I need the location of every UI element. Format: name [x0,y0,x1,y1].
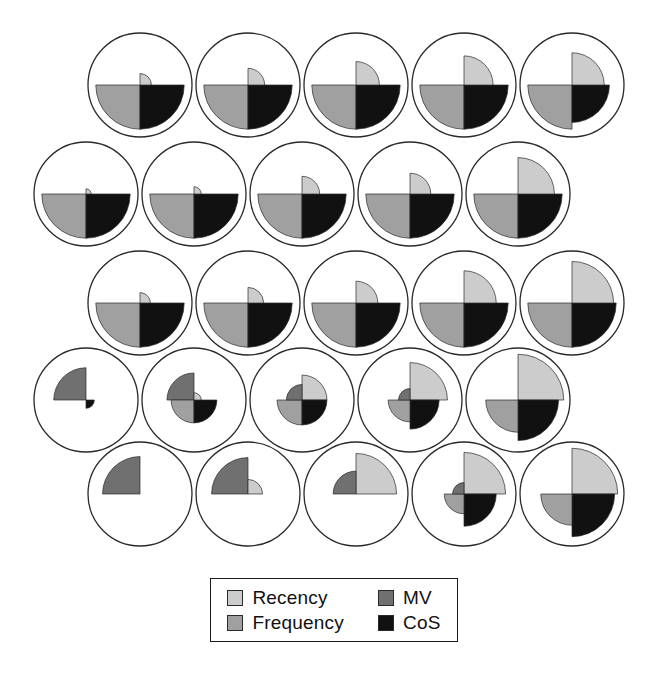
rose-glyph [520,33,624,137]
rose-sector-frequency [204,303,248,347]
rose-glyph [196,251,300,355]
rose-sector-cos [302,194,346,238]
rose-sector-cos [572,303,616,347]
rose-glyph [304,442,408,546]
rose-glyph [520,442,624,546]
rose-sector-recency [518,354,564,400]
rose-glyph [466,348,570,452]
rose-glyph [196,442,300,546]
rose-sector-cos [248,85,292,129]
rose-sector-cos [356,303,400,347]
rose-chart-grid [0,0,668,568]
rose-sector-cos [518,194,562,238]
rose-sector-cos [140,303,184,347]
rose-glyph [196,33,300,137]
rose-sector-frequency [420,85,464,129]
rose-sector-cos [194,194,238,238]
rose-chart-grid-svg [0,0,668,568]
rose-glyph [250,142,354,246]
rose-glyph [88,33,192,137]
rose-sector-frequency [96,303,140,347]
legend-item-frequency: Frequency [227,613,344,632]
rose-sector-cos [140,85,184,129]
legend-label-mv: MV [403,588,432,607]
rose-glyph [358,142,462,246]
rose-glyph [88,442,192,546]
rose-sector-cos [86,194,130,238]
rose-sector-cos [248,303,292,347]
rose-glyph [142,348,246,452]
rose-sector-frequency [312,85,356,129]
rose-sector-cos [410,194,454,238]
legend-container: Recency MV Frequency CoS [0,578,668,642]
rose-sector-frequency [150,194,194,238]
rose-sector-frequency [420,303,464,347]
rose-glyph [520,251,624,355]
rose-glyph [412,442,516,546]
rose-glyph [88,251,192,355]
cos-swatch-icon [378,615,394,631]
rose-glyph [412,33,516,137]
rose-glyph [34,142,138,246]
legend-label-frequency: Frequency [252,613,344,632]
rose-glyph [250,348,354,452]
rose-sector-frequency [474,194,518,238]
rose-sector-frequency [42,194,86,238]
legend-item-mv: MV [378,588,441,607]
recency-swatch-icon [227,590,243,606]
rose-sector-frequency [96,85,140,129]
rose-sector-frequency [528,85,572,129]
rose-sector-frequency [528,303,572,347]
mv-swatch-icon [378,590,394,606]
rose-glyph [34,348,138,452]
legend-box: Recency MV Frequency CoS [210,578,457,642]
legend-item-cos: CoS [378,613,441,632]
rose-sector-recency [572,448,618,494]
rose-sector-frequency [204,85,248,129]
rose-glyph [304,251,408,355]
frequency-swatch-icon [227,615,243,631]
rose-sector-cos [356,85,400,129]
rose-glyph [304,33,408,137]
rose-sector-frequency [258,194,302,238]
rose-glyph [142,142,246,246]
legend-label-cos: CoS [403,613,441,632]
legend-label-recency: Recency [252,588,327,607]
rose-sector-frequency [312,303,356,347]
rose-glyph [412,251,516,355]
rose-glyph [358,348,462,452]
rose-sector-cos [464,85,508,129]
rose-sector-cos [464,303,508,347]
legend-item-recency: Recency [227,588,344,607]
rose-sector-frequency [366,194,410,238]
rose-glyph [466,142,570,246]
